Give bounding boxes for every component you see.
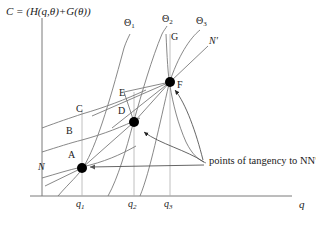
curve-label-G: G xyxy=(171,32,178,42)
tangency-marker-F xyxy=(165,77,175,87)
point-label-C: C xyxy=(76,104,83,114)
theta1-label: Θ1 xyxy=(124,18,135,28)
point-label-B: B xyxy=(66,126,73,136)
axes-group xyxy=(30,18,292,196)
x-tick-q2-subscript: 2 xyxy=(133,203,137,211)
vertical-axis-formula-label: C = (H(q,θ)+G(θ)) xyxy=(6,6,91,17)
theta1-subscript: 1 xyxy=(131,22,135,30)
point-label-A: A xyxy=(68,150,75,160)
annotation-arrow-to-A xyxy=(90,165,204,167)
theta3-label: Θ3 xyxy=(196,16,207,26)
point-label-D: D xyxy=(118,106,125,116)
x-tick-label-q2: q2 xyxy=(128,199,137,209)
x-tick-label-q3: q3 xyxy=(164,199,173,209)
figure-container: C = (H(q,θ)+G(θ)) Θ1 Θ2 Θ3 G N′ N A D F … xyxy=(0,0,316,225)
tangency-marker-D xyxy=(129,117,139,127)
annotation-arrow-A-group xyxy=(90,165,204,167)
point-label-E: E xyxy=(119,88,125,98)
tangency-marker-A xyxy=(77,163,87,173)
chord-C-to-F xyxy=(92,82,170,116)
point-label-F: F xyxy=(177,80,183,90)
annotation-arrow-to-D xyxy=(144,132,204,162)
theta3-subscript: 3 xyxy=(203,20,207,28)
x-tick-label-q1: q1 xyxy=(76,199,85,209)
tangency-annotation: points of tangency to NN′ xyxy=(209,156,316,167)
theta2-subscript: 2 xyxy=(169,18,173,26)
x-axis-label: q xyxy=(299,199,305,210)
diagram-canvas xyxy=(0,0,316,225)
curve-label-n-prime: N′ xyxy=(209,36,218,46)
x-tick-q1-subscript: 1 xyxy=(81,203,85,211)
theta2-curve xyxy=(108,26,167,196)
x-tick-q3-subscript: 3 xyxy=(169,203,173,211)
curve-label-n: N xyxy=(38,162,45,172)
theta2-label: Θ2 xyxy=(162,14,173,24)
